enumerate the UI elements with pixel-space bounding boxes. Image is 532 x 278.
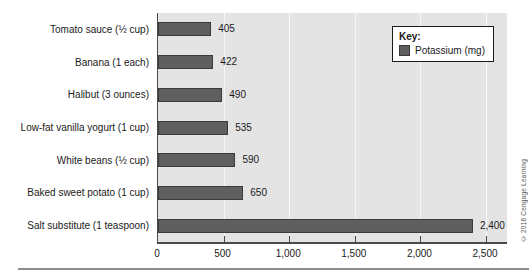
- bar: [158, 88, 222, 102]
- x-tick-label: 2,000: [407, 248, 432, 259]
- y-axis-label: Low-fat vanilla yogurt (1 cup): [0, 111, 149, 144]
- bar: [158, 55, 213, 69]
- tick-mark: [486, 236, 487, 242]
- x-tick-label: 1,500: [341, 248, 366, 259]
- tick-mark: [289, 236, 290, 242]
- gridline: [355, 13, 356, 242]
- bar-value-label: 2,400: [480, 219, 505, 233]
- legend-swatch-icon: [399, 45, 410, 56]
- bar-value-label: 405: [218, 22, 235, 36]
- bar: [158, 22, 211, 36]
- bottom-rule: [18, 268, 529, 270]
- x-tick-label: 2,500: [472, 248, 497, 259]
- bar-value-label: 535: [235, 121, 252, 135]
- tick-mark: [420, 236, 421, 242]
- potassium-bar-chart-figure: 4054224905355906502,400 Tomato sauce (½ …: [0, 0, 532, 278]
- bar: [158, 219, 473, 233]
- x-tick-label: 1,000: [276, 248, 301, 259]
- x-tick-label: 0: [154, 248, 160, 259]
- y-axis-label: Halibut (3 ounces): [0, 78, 149, 111]
- bar-value-label: 422: [220, 55, 237, 69]
- bar-value-label: 490: [229, 88, 246, 102]
- y-axis-label: Salt substitute (1 teaspoon): [0, 209, 149, 242]
- legend-entry: Potassium (mg): [399, 45, 487, 56]
- copyright-credit: © 2016 Cengage Learning: [520, 159, 527, 242]
- y-axis-label: Baked sweet potato (1 cup): [0, 177, 149, 210]
- bar-value-label: 590: [242, 153, 259, 167]
- tick-mark: [224, 236, 225, 242]
- legend: Key: Potassium (mg): [392, 26, 494, 62]
- legend-entry-label: Potassium (mg): [415, 45, 485, 56]
- tick-mark: [355, 236, 356, 242]
- bar: [158, 121, 228, 135]
- legend-title: Key:: [399, 31, 487, 42]
- bar-value-label: 650: [250, 186, 267, 200]
- gridline: [289, 13, 290, 242]
- y-axis-label: Tomato sauce (½ cup): [0, 13, 149, 46]
- bar: [158, 153, 235, 167]
- bar: [158, 186, 243, 200]
- x-tick-label: 500: [214, 248, 231, 259]
- y-axis-label: White beans (½ cup): [0, 144, 149, 177]
- y-axis-label: Banana (1 each): [0, 46, 149, 79]
